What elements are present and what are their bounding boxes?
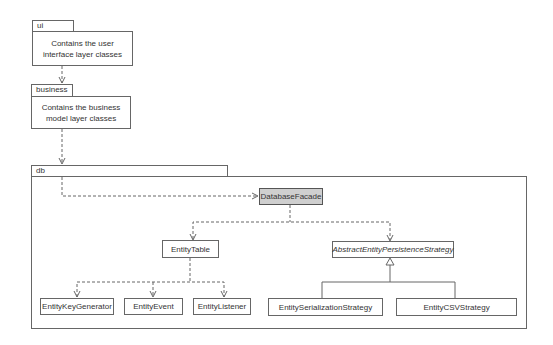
class-name: EntityEvent bbox=[133, 302, 173, 311]
class-name: EntityKeyGenerator bbox=[42, 302, 112, 311]
package-body-ui[interactable]: Contains the user interface layer classe… bbox=[32, 31, 133, 66]
package-name-ui: ui bbox=[37, 21, 43, 30]
package-description-ui: Contains the user interface layer classe… bbox=[36, 38, 129, 60]
package-name-db: db bbox=[36, 166, 45, 175]
class-name: DatabaseFacade bbox=[261, 192, 322, 201]
class-entity-table[interactable]: EntityTable bbox=[162, 240, 219, 258]
package-description-business: Contains the business model layer classe… bbox=[35, 102, 127, 124]
class-entity-csv-strategy[interactable]: EntityCSVStrategy bbox=[396, 298, 517, 316]
package-name-business: business bbox=[36, 85, 68, 94]
class-entity-event[interactable]: EntityEvent bbox=[124, 298, 183, 315]
class-database-facade[interactable]: DatabaseFacade bbox=[259, 188, 323, 205]
class-name: AbstractEntityPersistenceStrategy bbox=[333, 245, 454, 254]
class-name: EntityCSVStrategy bbox=[423, 303, 489, 312]
package-body-business[interactable]: Contains the business model layer classe… bbox=[31, 96, 131, 129]
class-name: EntityListener bbox=[198, 302, 246, 311]
class-entity-key-generator[interactable]: EntityKeyGenerator bbox=[40, 298, 114, 315]
class-abstract-entity-persistence-strategy[interactable]: AbstractEntityPersistenceStrategy bbox=[332, 241, 454, 258]
class-entity-listener[interactable]: EntityListener bbox=[193, 298, 251, 315]
class-entity-serialization-strategy[interactable]: EntitySerializationStrategy bbox=[268, 298, 383, 316]
class-name: EntitySerializationStrategy bbox=[279, 303, 372, 312]
class-name: EntityTable bbox=[171, 245, 210, 254]
